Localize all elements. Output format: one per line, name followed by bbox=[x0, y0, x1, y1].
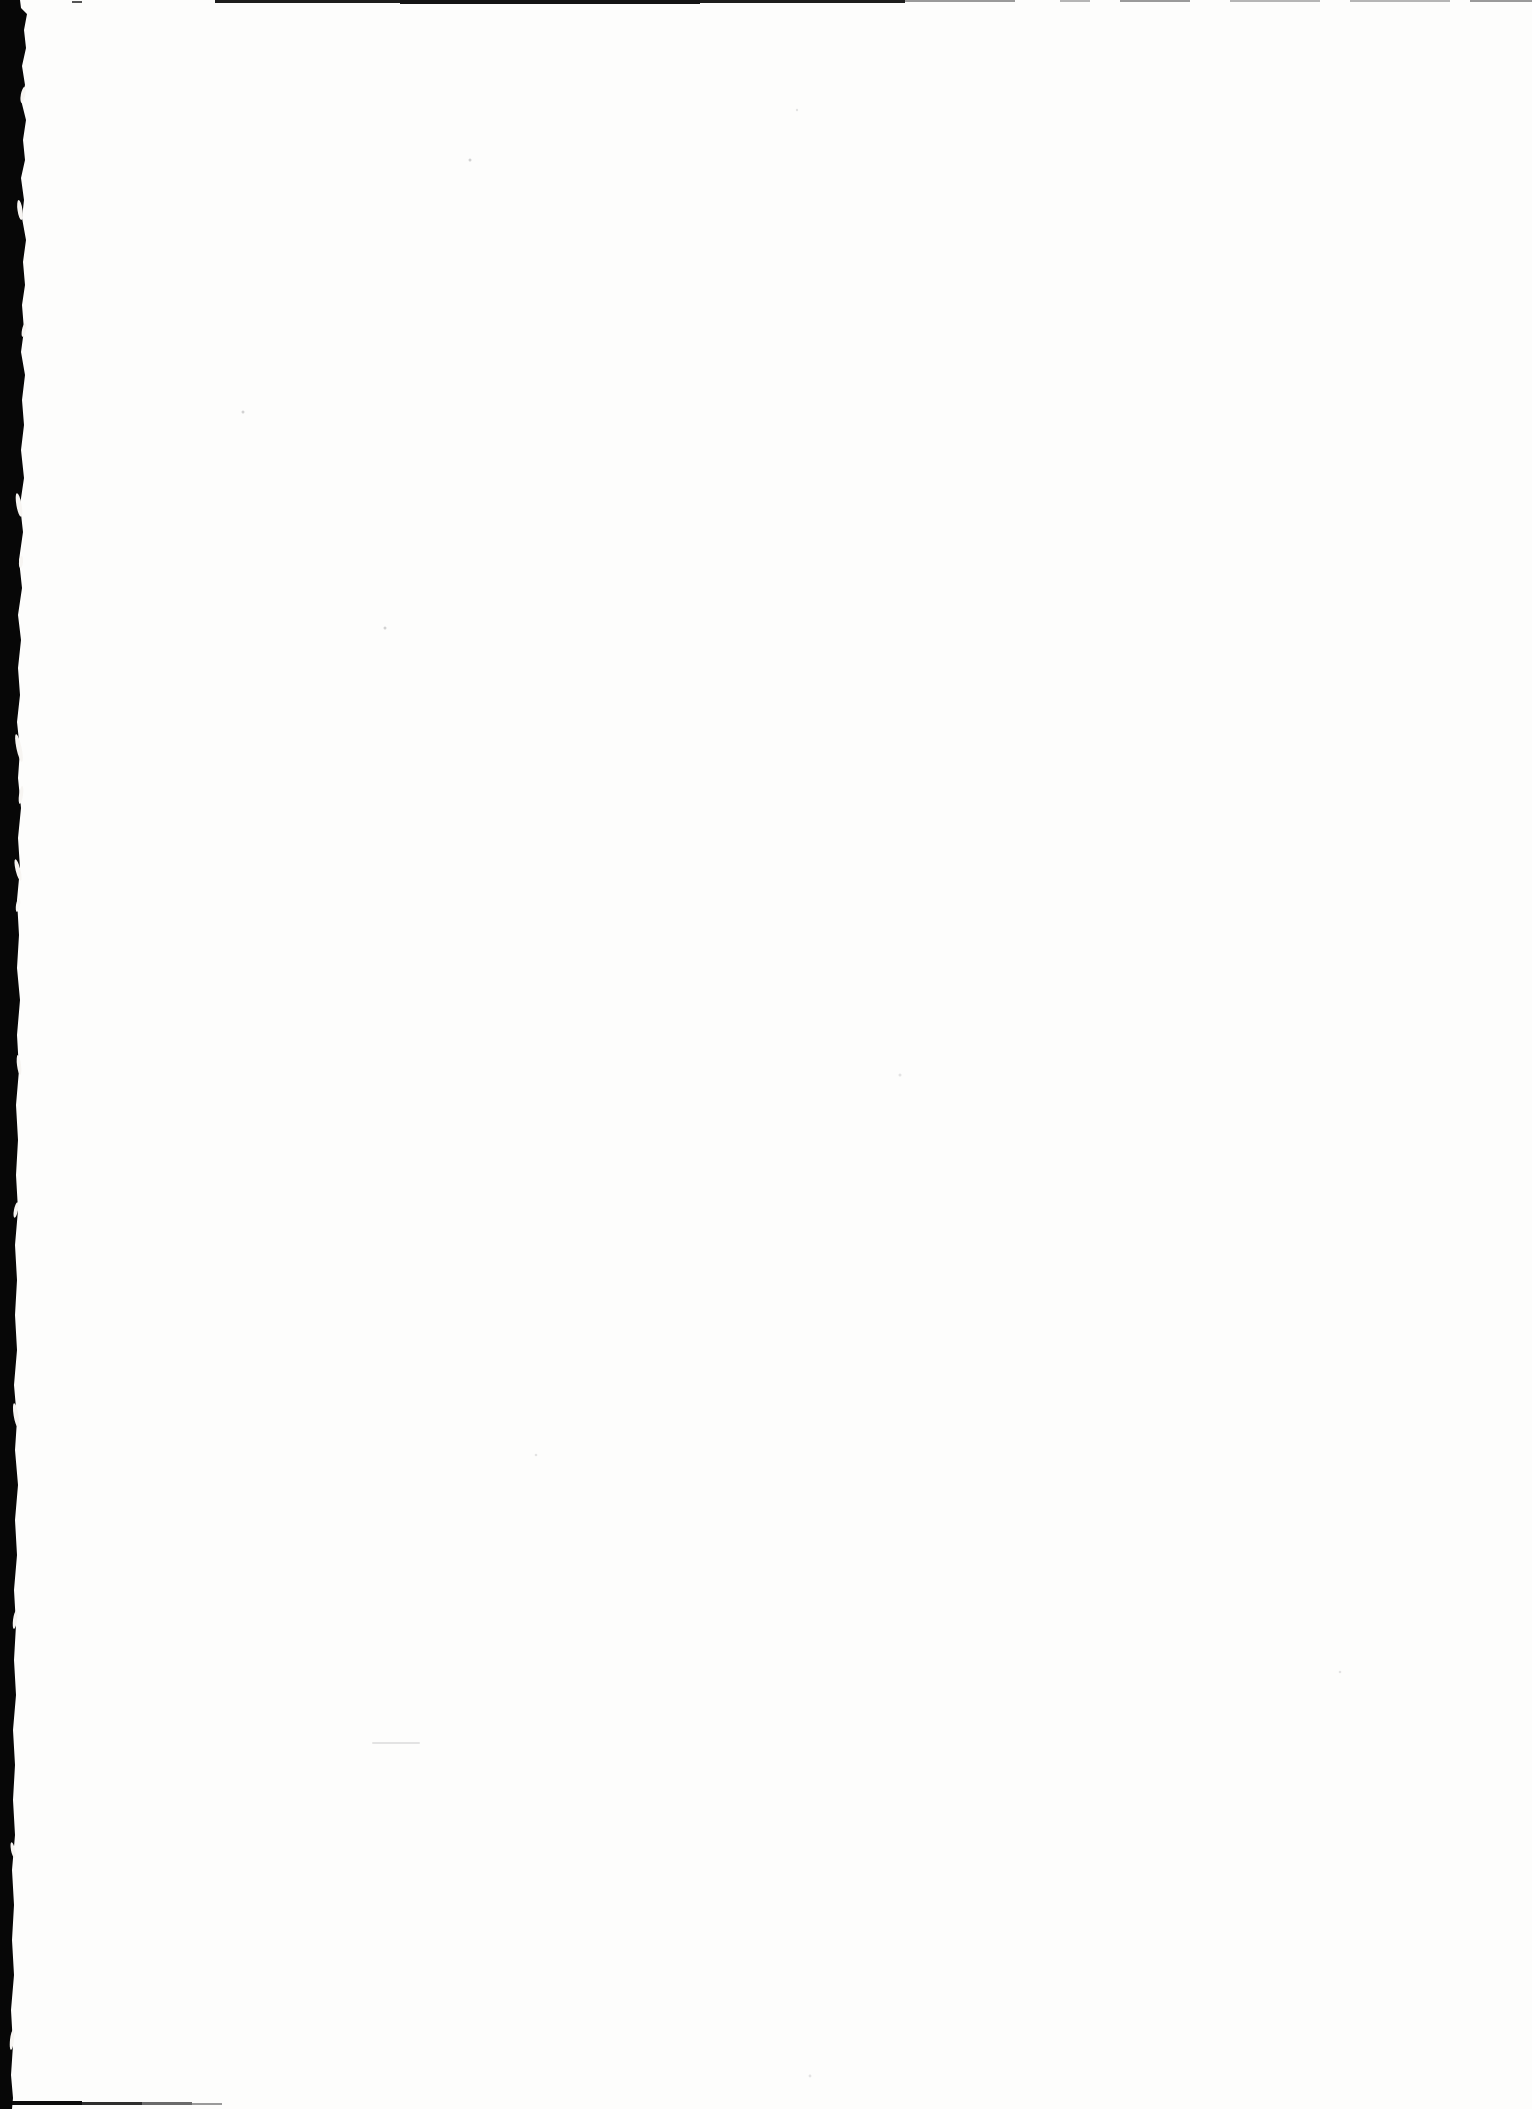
paper-speck bbox=[1339, 1671, 1342, 1674]
top-edge-segment bbox=[905, 0, 1015, 2]
paper-speck bbox=[469, 159, 472, 162]
top-edge-segment bbox=[700, 0, 905, 3]
scan-artifacts-canvas bbox=[0, 0, 1532, 2109]
paper-speck bbox=[796, 109, 798, 111]
paper-speck bbox=[899, 1074, 902, 1077]
top-edge-segment bbox=[1470, 0, 1532, 2]
paper-background bbox=[0, 0, 1532, 2109]
top-edge-segment bbox=[72, 1, 82, 3]
top-edge-segment bbox=[1060, 0, 1090, 2]
top-edge-segment bbox=[400, 0, 700, 4]
top-edge-segment bbox=[1350, 0, 1450, 2]
scanned-blank-page bbox=[0, 0, 1532, 2109]
paper-speck bbox=[242, 411, 245, 414]
paper-speck bbox=[384, 627, 387, 630]
paper-speck bbox=[535, 1454, 538, 1457]
top-edge-segment bbox=[1230, 0, 1320, 2]
bottom-edge-segment bbox=[192, 2103, 222, 2105]
top-edge-segment bbox=[215, 0, 400, 3]
bottom-edge-segment bbox=[82, 2102, 142, 2105]
paper-speck-dash bbox=[372, 1742, 420, 1744]
top-edge-segment bbox=[1120, 0, 1190, 2]
paper-speck bbox=[809, 2075, 812, 2078]
bottom-edge-segment bbox=[12, 2101, 82, 2105]
bottom-edge-segment bbox=[142, 2102, 192, 2105]
